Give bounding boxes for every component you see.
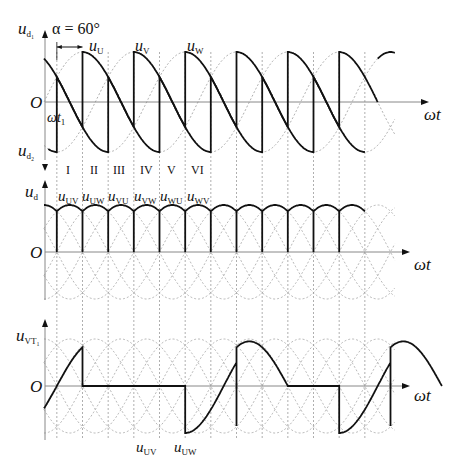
output-waveforms	[44, 52, 442, 433]
line-label-vu: uVU	[108, 189, 129, 206]
top-axis-wt-label: ωt	[424, 106, 441, 123]
reference-sinusoids	[44, 52, 395, 433]
top-ylabel-ud2: ud₂	[18, 142, 34, 161]
interval-V: V	[167, 164, 176, 176]
rectifier-waveform-diagram	[0, 0, 453, 467]
wt1-label: ωt1	[47, 111, 65, 127]
mid-origin-label: O	[30, 244, 42, 261]
line-label-wv: uWV	[187, 189, 210, 206]
line-label-wu: uWU	[160, 189, 183, 206]
axes	[42, 30, 429, 440]
line-label-vw: uVW	[134, 189, 157, 206]
interval-I: I	[66, 164, 70, 176]
mid-axis-wt-label: ωt	[414, 256, 431, 273]
bot-origin-label: O	[30, 378, 42, 395]
line-label-uv: uUV	[58, 189, 79, 206]
interval-IV: IV	[140, 164, 153, 176]
mid-ylabel-ud: ud	[25, 183, 38, 202]
bottom-label-uw: uUW	[174, 440, 197, 457]
phase-label-u: uU	[89, 38, 104, 56]
phase-label-w: uW	[187, 38, 204, 56]
top-ylabel-ud1: ud₁	[18, 20, 34, 39]
alpha-label: α = 60°	[52, 21, 100, 37]
line-label-uw: uUW	[82, 189, 105, 206]
interval-III: III	[113, 164, 125, 176]
phase-label-v: uV	[135, 38, 150, 56]
bot-axis-wt-label: ωt	[414, 387, 431, 404]
bot-ylabel-uvt1: uVT₁	[16, 327, 40, 346]
interval-II: II	[90, 164, 98, 176]
interval-VI: VI	[191, 164, 204, 176]
bottom-label-uv: uUV	[136, 440, 157, 457]
top-origin-label: O	[30, 94, 42, 111]
